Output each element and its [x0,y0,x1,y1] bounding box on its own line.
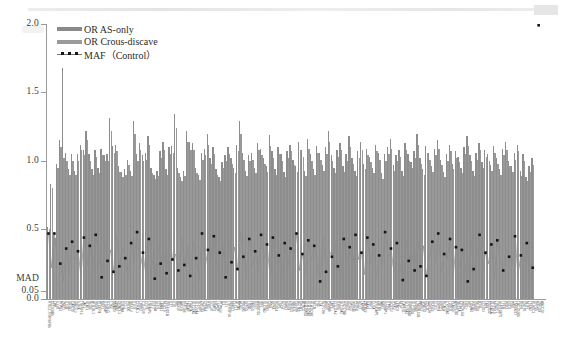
maf-data-point-marker [342,238,345,241]
maf-data-point-marker [331,255,334,258]
y-axis-break-label-wrap: MAD [0,273,39,283]
maf-data-point-marker [100,276,103,279]
maf-data-point-marker [484,251,487,254]
maf-data-point-marker [283,242,286,245]
x-axis-category-labels: RTEL1-TNFRSF6BCCDC88BLPPIL23RPTPN2ZMIZ1I… [47,301,547,350]
maf-data-point-marker [437,232,440,235]
maf-data-point-marker [455,246,458,249]
legend-swatch-bar-icon [57,40,82,44]
figure-canvas: 2.01.51.00.50.050.0MAD OR AS-only OR Cro… [0,0,564,350]
maf-data-point-marker [354,234,357,237]
maf-data-point-marker [461,249,464,252]
maf-data-point-marker [301,253,304,256]
maf-data-point-marker [171,258,174,261]
maf-data-point-marker [390,247,393,250]
maf-data-point-marker [277,254,280,257]
maf-data-point-marker [360,251,363,254]
y-axis-tick [41,24,46,25]
maf-data-point-marker [337,265,340,268]
scan-artifact-chip [534,5,558,15]
maf-data-point-marker [153,277,156,280]
y-axis-tick-label: 0.5 [0,223,39,233]
maf-data-point-marker [272,236,275,239]
legend-label: OR Crous-discave [84,36,158,47]
maf-data-point-marker [142,251,145,254]
y-axis-tick [41,92,46,93]
maf-data-point-marker [230,261,233,264]
maf-data-point-marker [94,234,97,237]
maf-data-point-marker [165,272,168,275]
maf-data-point-marker [207,249,210,252]
maf-data-point-marker [478,234,481,237]
legend-swatch-line-dot-icon [57,51,82,58]
legend-item-or-as-only[interactable]: OR AS-only [57,23,158,36]
maf-data-point-marker [325,271,328,274]
maf-data-point-marker [520,254,523,257]
maf-data-point-marker [407,260,410,263]
maf-data-point-marker [295,232,298,235]
maf-data-point-marker [443,253,446,256]
plot-area [47,24,546,299]
maf-data-point-marker [65,247,68,250]
legend-item-maf-control[interactable]: MAF（Control） [57,48,158,61]
maf-data-point-marker [307,239,310,242]
x-axis-line [46,299,546,300]
maf-data-point-marker [224,276,227,279]
y-axis-tick-label-wrap: 1.5 [0,86,39,96]
maf-data-point-marker [177,269,180,272]
maf-data-point-marker [159,262,162,265]
legend-label: MAF（Control） [84,47,156,62]
y-axis-tick [41,291,46,292]
y-axis-tick-label-wrap: 1.0 [0,155,39,165]
maf-data-point-marker [189,275,192,278]
maf-data-point-marker [508,255,511,258]
maf-data-point-marker [71,240,74,243]
maf-data-point-marker [201,232,204,235]
maf-data-point-marker [218,251,221,254]
maf-data-point-marker [213,235,216,238]
maf-data-point-marker [183,264,186,267]
maf-data-point-marker [124,257,127,260]
y-axis-tick-label: 2.0 [0,18,39,28]
maf-data-point-marker [384,231,387,234]
maf-data-point-marker [413,269,416,272]
scan-artifact-band [28,8,556,11]
legend-swatch-bar-icon [57,27,82,31]
maf-control-line-series [47,24,546,299]
y-axis-tick [41,299,46,300]
maf-data-point-marker [431,240,434,243]
maf-data-point-marker [59,262,62,265]
maf-polyline [48,232,532,281]
legend: OR AS-only OR Crous-discave MAF（Control） [57,23,158,61]
y-axis-tick-label: 1.0 [0,155,39,165]
y-axis-tick [41,161,46,162]
maf-data-point-marker [148,238,151,241]
maf-data-point-marker [289,247,292,250]
y-axis-break-label: MAD [0,273,39,283]
maf-data-point-marker [53,232,56,235]
y-axis-tick-label-wrap: 0.0 [0,293,39,303]
y-axis-tick-label: 0.0 [0,293,39,303]
maf-data-point-marker [378,254,381,257]
maf-data-point-marker [130,242,133,245]
maf-data-point-marker [537,24,540,27]
maf-data-point-marker [319,280,322,283]
maf-data-point-marker [118,265,121,268]
legend-label: OR AS-only [84,24,134,35]
maf-data-point-marker [502,269,505,272]
maf-data-point-marker [313,245,316,248]
maf-data-point-marker [106,260,109,263]
maf-data-point-marker [77,250,80,253]
maf-data-point-marker [83,236,86,239]
maf-data-point-marker [449,238,452,241]
x-axis-category-label: ABCC10 [540,301,543,313]
maf-data-point-marker [248,238,251,241]
maf-data-point-marker [514,235,517,238]
maf-data-point-marker [236,268,239,271]
maf-data-point-marker [242,255,245,258]
maf-data-point-marker [531,266,534,269]
maf-data-point-marker [136,231,139,234]
maf-data-point-marker [419,265,422,268]
maf-data-point-marker [396,242,399,245]
maf-data-point-marker [496,239,499,242]
